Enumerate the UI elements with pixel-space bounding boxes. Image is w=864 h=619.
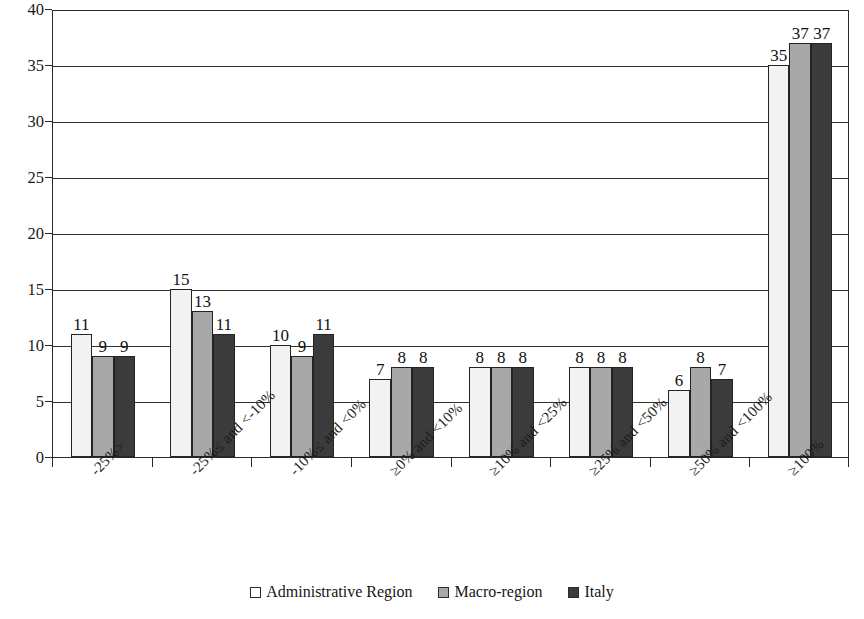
chart-title-remnant — [0, 0, 864, 7]
plot-area: 119915131110911788888888687353737 — [52, 10, 849, 458]
bar-value-label: 7 — [376, 361, 385, 378]
y-tick-mark-5 — [45, 401, 52, 402]
legend-swatch-gray-icon — [438, 587, 449, 598]
bar[interactable]: 9 — [291, 356, 313, 457]
bar-value-label: 9 — [120, 338, 129, 355]
bar-value-label: 8 — [618, 349, 627, 366]
y-tick-label-40: 40 — [0, 2, 44, 18]
bar-slot: 8 — [391, 11, 413, 457]
bar[interactable]: 13 — [192, 311, 214, 457]
legend-item[interactable]: Administrative Region — [250, 583, 412, 601]
bar-slot: 8 — [690, 11, 712, 457]
bar-group: 788 — [369, 11, 434, 457]
y-tick-label-20: 20 — [0, 226, 44, 242]
bar[interactable]: 7 — [369, 379, 391, 457]
bar-group: 888 — [469, 11, 534, 457]
y-tick-mark-10 — [45, 345, 52, 346]
bar-value-label: 11 — [315, 316, 331, 333]
bar-slot: 7 — [711, 11, 733, 457]
bar-value-label: 8 — [497, 349, 506, 366]
bar-value-label: 9 — [298, 338, 307, 355]
bar-slot: 6 — [668, 11, 690, 457]
bar-slot: 13 — [192, 11, 214, 457]
y-tick-label-25: 25 — [0, 170, 44, 186]
legend-swatch-dark-icon — [568, 587, 579, 598]
bar[interactable]: 8 — [469, 367, 491, 457]
bar-slot: 35 — [768, 11, 790, 457]
bar-value-label: 8 — [397, 349, 406, 366]
bar-value-label: 13 — [194, 293, 211, 310]
bar-slot: 11 — [213, 11, 235, 457]
bar[interactable]: 9 — [92, 356, 114, 457]
bar-value-label: 8 — [696, 349, 705, 366]
legend-item[interactable]: Italy — [568, 583, 613, 601]
y-tick-label-15: 15 — [0, 282, 44, 298]
y-tick-mark-0 — [45, 457, 52, 458]
legend-item-label: Macro-region — [454, 583, 542, 601]
bar-slot: 7 — [369, 11, 391, 457]
bar-group: 353737 — [768, 11, 833, 457]
bar[interactable]: 37 — [811, 43, 833, 457]
y-tick-mark-35 — [45, 65, 52, 66]
bar[interactable]: 6 — [668, 390, 690, 457]
legend-item-label: Administrative Region — [266, 583, 412, 601]
bar-slot: 9 — [92, 11, 114, 457]
bar-slot: 8 — [469, 11, 491, 457]
y-tick-mark-25 — [45, 177, 52, 178]
bar-group: 888 — [569, 11, 634, 457]
y-tick-label-10: 10 — [0, 338, 44, 354]
bar-value-label: 6 — [675, 372, 684, 389]
bar-value-label: 9 — [99, 338, 108, 355]
bar-value-label: 35 — [770, 47, 787, 64]
y-axis: 0510152025303540 — [0, 0, 52, 468]
legend-item-label: Italy — [584, 583, 613, 601]
bar-value-label: 8 — [575, 349, 584, 366]
legend-item[interactable]: Macro-region — [438, 583, 542, 601]
bar-slot: 8 — [412, 11, 434, 457]
bar-value-label: 8 — [476, 349, 485, 366]
bar-group: 151311 — [170, 11, 235, 457]
bar[interactable]: 8 — [569, 367, 591, 457]
bar-value-label: 37 — [813, 25, 830, 42]
bar-value-label: 15 — [172, 271, 189, 288]
bar-value-label: 8 — [519, 349, 528, 366]
y-tick-label-35: 35 — [0, 58, 44, 74]
bar-slot: 11 — [313, 11, 335, 457]
bar-chart: 0510152025303540 11991513111091178888888… — [0, 0, 864, 619]
bar-slot: 8 — [512, 11, 534, 457]
bar-slot: 8 — [491, 11, 513, 457]
y-tick-mark-15 — [45, 289, 52, 290]
bar-value-label: 11 — [216, 316, 232, 333]
bar-value-label: 37 — [792, 25, 809, 42]
y-tick-mark-30 — [45, 121, 52, 122]
y-tick-label-5: 5 — [0, 394, 44, 410]
bar-group: 10911 — [270, 11, 335, 457]
legend-swatch-white-icon — [250, 587, 261, 598]
bar-group: 1199 — [71, 11, 136, 457]
bar-slot: 9 — [114, 11, 136, 457]
bar-slot: 8 — [612, 11, 634, 457]
bar-slot: 10 — [270, 11, 292, 457]
bar-slot: 9 — [291, 11, 313, 457]
bar-value-label: 11 — [73, 316, 89, 333]
chart-legend: Administrative RegionMacro-regionItaly — [0, 583, 864, 601]
x-axis-labels: -25%>-25%≤ and <-10%-10%≤ and <0%≥0% and… — [0, 462, 864, 572]
bar-slot: 11 — [71, 11, 93, 457]
bar[interactable]: 11 — [71, 334, 93, 457]
bar-group: 687 — [668, 11, 733, 457]
bar-value-label: 8 — [597, 349, 606, 366]
bar[interactable]: 37 — [789, 43, 811, 457]
bars-layer: 119915131110911788888888687353737 — [53, 11, 848, 457]
y-tick-mark-40 — [45, 9, 52, 10]
bar-slot: 15 — [170, 11, 192, 457]
bar[interactable]: 15 — [170, 289, 192, 457]
bar-slot: 37 — [811, 11, 833, 457]
bar-value-label: 8 — [419, 349, 428, 366]
bar-slot: 8 — [590, 11, 612, 457]
bar-value-label: 10 — [272, 327, 289, 344]
bar-value-label: 7 — [718, 361, 727, 378]
y-tick-mark-20 — [45, 233, 52, 234]
y-tick-label-30: 30 — [0, 114, 44, 130]
bar-slot: 37 — [789, 11, 811, 457]
bar-slot: 8 — [569, 11, 591, 457]
